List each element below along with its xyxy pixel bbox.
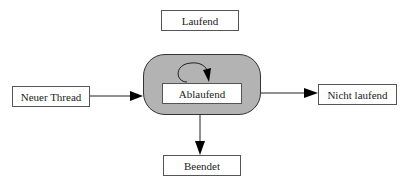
edge-ablaufend-to-beendet — [195, 115, 205, 155]
edge-neuer-thread-to-ablaufend — [90, 91, 143, 101]
edges-layer — [0, 0, 408, 185]
edge-ablaufend-to-nicht-laufend — [261, 88, 318, 98]
self-loop-arrow-icon — [178, 63, 211, 82]
